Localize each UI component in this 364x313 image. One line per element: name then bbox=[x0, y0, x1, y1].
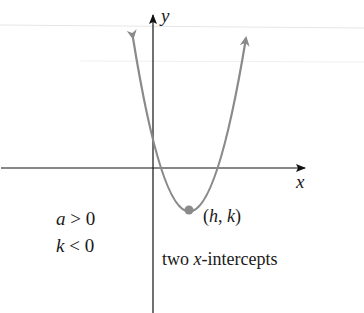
vertex-label: (h, k) bbox=[203, 207, 241, 225]
parabola-curve bbox=[133, 38, 246, 212]
guide-line-top bbox=[0, 25, 364, 28]
guide-line-second bbox=[80, 61, 364, 62]
y-axis-label: y bbox=[161, 6, 169, 25]
x-axis-label: x bbox=[296, 172, 304, 191]
condition-k: k < 0 bbox=[56, 236, 94, 255]
intercepts-caption: two x-intercepts bbox=[162, 250, 277, 268]
condition-a: a > 0 bbox=[56, 209, 95, 228]
vertex-point bbox=[185, 206, 194, 215]
